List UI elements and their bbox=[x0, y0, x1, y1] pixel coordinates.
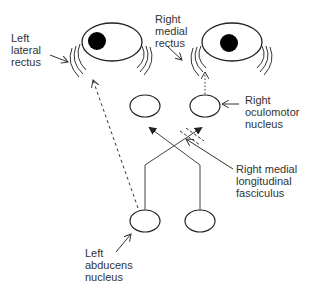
label-right-medial-rectus: Right medial rectus bbox=[155, 13, 187, 49]
label-right-oculomotor-nucleus: Right oculomotor nucleus bbox=[245, 94, 299, 130]
right-abducens-nucleus bbox=[185, 210, 215, 232]
left-oculomotor-nucleus bbox=[130, 95, 160, 117]
gaze-pathway-diagram: Left lateral rectus Right medial rectus … bbox=[0, 0, 309, 288]
right-pupil bbox=[220, 34, 238, 52]
left-abducens-nucleus bbox=[130, 210, 160, 232]
left-abducens-nerve-dashed bbox=[93, 80, 138, 208]
label-right-mlf: Right medial longitudinal fasciculus bbox=[236, 163, 297, 199]
right-mlf-dashed-marker-2 bbox=[186, 128, 204, 141]
label-left-lateral-rectus: Left lateral rectus bbox=[11, 32, 41, 68]
left-eye bbox=[70, 23, 152, 77]
right-oculomotor-nucleus bbox=[190, 95, 220, 117]
right-medial-rectus-muscle bbox=[191, 46, 206, 76]
right-eye bbox=[191, 23, 272, 76]
pointer-right-mlf bbox=[186, 139, 233, 169]
label-left-abducens-nucleus: Left abducens nucleus bbox=[85, 247, 133, 283]
pointer-left-lateral-rectus bbox=[50, 55, 68, 62]
right-mlf-dashed-marker bbox=[180, 131, 200, 145]
left-pupil bbox=[88, 32, 106, 50]
